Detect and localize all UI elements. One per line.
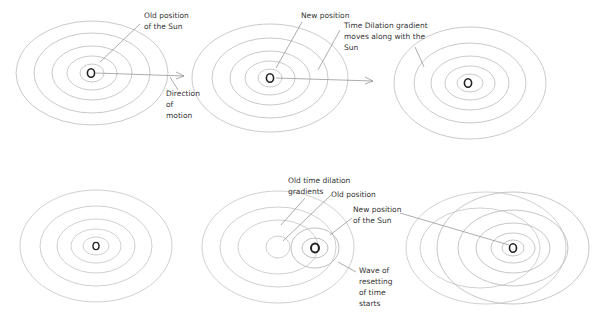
panel-2-rings: [192, 24, 348, 132]
old-gradients-leader-line: [281, 198, 305, 225]
panel-5-old-rings: [202, 191, 354, 303]
wave-resetting-label: Wave of resetting of time starts: [359, 265, 393, 309]
old-position-label: Old position of the Sun: [144, 10, 189, 32]
sun-icon: [87, 69, 94, 78]
gradient-moves-label: Time Dilation gradient moves along with …: [344, 20, 428, 53]
old-position-leader-line: [100, 24, 140, 62]
direction-of-motion-label: Direction of motion: [166, 88, 200, 121]
panel-6-old-rings: [406, 192, 566, 304]
old-position-label-2: Old position: [331, 189, 376, 200]
sun-icon: [464, 79, 471, 88]
panel-1-rings: [16, 21, 168, 125]
sun-icon: [93, 242, 99, 249]
sun-icon: [510, 244, 517, 252]
old-position-leader-line-2: [283, 195, 331, 241]
panel-4-rings: [20, 190, 172, 302]
direction-arrow-icon: [276, 77, 373, 84]
new-position-leader-line: [276, 22, 302, 68]
diagram-canvas: [0, 0, 604, 312]
new-position-sun-label: New position of the Sun: [353, 204, 401, 226]
new-position-label: New position: [301, 10, 349, 21]
sun-icon: [266, 74, 273, 83]
panel-6-leader-line: [400, 213, 509, 245]
